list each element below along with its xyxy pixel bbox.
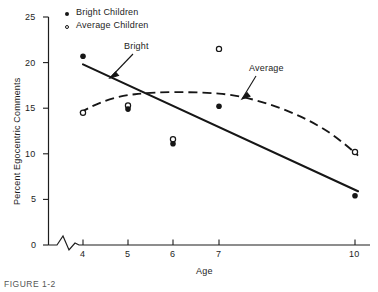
x-tick-label-7: 7 <box>216 249 221 259</box>
y-axis-ticks <box>43 17 49 245</box>
legend-marker-average-icon <box>65 25 69 29</box>
x-tick-label-5: 5 <box>125 249 130 259</box>
x-axis-title: Age <box>196 266 213 276</box>
annotation-bright: Bright <box>124 41 149 51</box>
y-axis-title: Percent Egocentric Comments <box>12 78 22 205</box>
figure-caption: FIGURE 1-2 <box>4 279 56 289</box>
legend-label-average: Average Children <box>76 20 149 30</box>
chart-canvas <box>0 0 378 292</box>
x-tick-label-6: 6 <box>170 249 175 259</box>
y-tick-label-15: 15 <box>25 103 35 113</box>
x-tick-label-10: 10 <box>349 249 359 259</box>
y-tick-label-0: 0 <box>31 240 36 250</box>
annotation-average: Average <box>249 63 284 73</box>
x-tick-label-4: 4 <box>80 249 85 259</box>
y-tick-label-20: 20 <box>25 58 35 68</box>
trend-line-average <box>80 92 358 156</box>
y-tick-label-5: 5 <box>31 194 36 204</box>
y-tick-label-10: 10 <box>25 149 35 159</box>
x-axis-ticks <box>83 240 355 246</box>
series-average-children-markers <box>80 46 357 154</box>
legend-label-bright: Bright Children <box>76 7 139 17</box>
y-tick-label-25: 25 <box>25 12 35 22</box>
trend-line-bright <box>83 64 358 191</box>
figure-container: 25 20 15 10 5 0 4 5 6 7 10 Age Percent E… <box>0 0 378 292</box>
x-axis-line <box>49 236 371 250</box>
legend-marker-bright-icon <box>65 12 69 16</box>
